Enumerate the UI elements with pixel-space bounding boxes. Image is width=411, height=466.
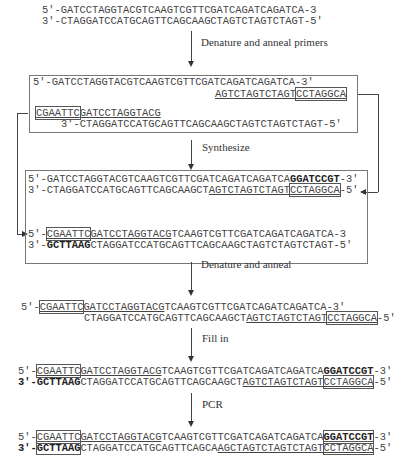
annealed-bottom-strand: 3′-CTAGGATCCATGCAGTTCAGCAAGCTAGTCTAGTCTA… <box>61 119 342 130</box>
pcr-bottom-strand: 3′-GCTTAAGCTAGGATCCATGCAGTTCAGCAAGCTAGTC… <box>18 443 392 454</box>
right-primer-connector <box>378 94 379 192</box>
arrow-step2 <box>191 140 192 165</box>
annealed-top-strand: 5′-GATCCTAGGTACGTCAAGTCGTTCGATCAGATCAGAT… <box>33 77 314 88</box>
filled-bottom-strand: 3′-GCTTAAGCTAGGATCCATGCAGTTCAGCAAGCTAGTC… <box>18 377 392 388</box>
synth-a-bottom-strand: 3′-CTAGGATCCATGCAGTTCAGCAAGCTAGTCTAGTCTA… <box>28 185 359 196</box>
arrow-step5 <box>191 393 192 423</box>
step-label-pcr: PCR <box>202 398 223 410</box>
template-bottom-strand: 3′-CTAGGATCCATGCAGTTCAGCAAGCTAGTCTAGTCTA… <box>42 16 323 27</box>
reannealed-bottom-strand: CTAGGATCCATGCAGTTCAGCAAGCTAGTCTAGTCTAGTC… <box>84 313 396 324</box>
step-label-denature-anneal-primers: Denature and anneal primers <box>201 36 328 48</box>
arrow-step4 <box>191 328 192 358</box>
arrow-head-icon <box>188 421 194 427</box>
arrow-head-icon <box>188 356 194 362</box>
arrow-head-icon <box>188 61 194 67</box>
left-primer-connector <box>17 113 28 114</box>
arrow-step1 <box>191 31 192 63</box>
arrow-step3 <box>191 262 192 292</box>
right-primer: AGTCTAGTCTAGTCCTAGGCA <box>215 89 346 100</box>
step-label-denature-anneal: Denature and anneal <box>201 258 291 270</box>
synth-b-bottom-strand: 3′-GCTTAAGCTAGGATCCATGCAGTTCAGCAAGCTAGTC… <box>28 240 352 251</box>
arrow-head-icon <box>188 290 194 296</box>
right-primer-connector <box>358 94 378 95</box>
step-label-fill-in: Fill in <box>202 332 229 344</box>
left-primer-connector <box>17 113 18 234</box>
step-label-synthesize: Synthesize <box>202 141 250 153</box>
